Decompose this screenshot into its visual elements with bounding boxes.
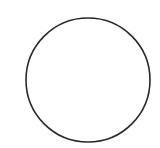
circle-shape — [26, 18, 150, 142]
diagram-canvas — [0, 0, 160, 148]
